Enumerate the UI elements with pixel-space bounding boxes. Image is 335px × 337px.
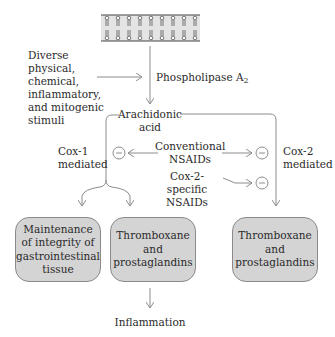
box-line: of integrity of — [16, 236, 100, 250]
cell-membrane-icon — [101, 15, 200, 41]
inhibitor-line: NSAIDs — [150, 196, 224, 209]
stimuli-line: Diverse — [28, 49, 118, 62]
stimuli-line: and mitogenic — [28, 101, 118, 114]
cox2-specific-nsaids-label: Cox-2-specific NSAIDs — [150, 170, 224, 209]
pathway-line: Cox-1 — [58, 145, 108, 158]
cox1-thromboxane-box: Thromboxane and prostaglandins — [110, 217, 196, 282]
gi-integrity-box: Maintenance of integrity of gastrointest… — [15, 217, 101, 282]
inhibitor-line: Cox-2-specific — [150, 170, 224, 196]
inhibitor-line: NSAIDs — [155, 153, 225, 166]
pathway-line: Cox-2 — [283, 145, 333, 158]
stimuli-label: Diverse physical, chemical, inflammatory… — [28, 49, 118, 127]
box-line: Thromboxane — [235, 229, 314, 243]
box-line: gastrointestinal — [16, 250, 100, 264]
outcome-label: Inflammation — [110, 316, 190, 329]
conventional-nsaids-label: Conventional NSAIDs — [155, 140, 225, 166]
box-line: Thromboxane — [113, 229, 192, 243]
enzyme-label: Phospholipase A2 — [156, 71, 249, 87]
cox1-pathway-label: Cox-1 mediated — [58, 145, 108, 171]
pathway-line: mediated — [283, 158, 333, 171]
inhibitor-line: Conventional — [155, 140, 225, 153]
substrate-line: Arachidonic — [118, 108, 182, 121]
stimuli-line: stimuli — [28, 114, 118, 127]
box-line: Maintenance — [16, 223, 100, 237]
substrate-label: Arachidonic acid — [118, 108, 182, 134]
stimuli-line: physical, chemical, — [28, 62, 118, 88]
cox2-pathway-label: Cox-2 mediated — [283, 145, 333, 171]
pathway-line: mediated — [58, 158, 108, 171]
box-line: and — [113, 243, 192, 257]
enzyme-name: Phospholipase A — [156, 71, 244, 83]
cox2-thromboxane-box: Thromboxane and prostaglandins — [232, 217, 318, 282]
box-line: prostaglandins — [113, 256, 192, 270]
substrate-line: acid — [118, 121, 182, 134]
box-line: tissue — [16, 263, 100, 277]
box-line: prostaglandins — [235, 256, 314, 270]
box-line: and — [235, 243, 314, 257]
stimuli-line: inflammatory, — [28, 88, 118, 101]
enzyme-subscript: 2 — [244, 76, 249, 85]
